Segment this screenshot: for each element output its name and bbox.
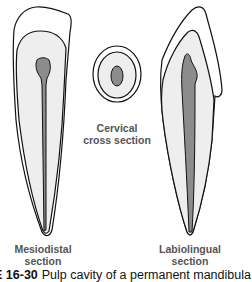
- labiolingual-label-line2: section: [150, 255, 230, 267]
- labiolingual-section-drawing: [161, 7, 222, 235]
- labiolingual-label-line1: Labiolingual: [150, 243, 230, 255]
- mesiodistal-label: Mesiodistal section: [5, 243, 81, 267]
- cervical-pulp: [111, 66, 123, 86]
- cervical-cross-section-drawing: [93, 46, 141, 102]
- figure-number: E 16-30: [0, 268, 38, 282]
- cervical-label-line1: Cervical: [82, 122, 152, 134]
- cervical-label: Cervical cross section: [82, 122, 152, 146]
- mesiodistal-section-drawing: [13, 7, 71, 236]
- mesiodistal-label-line2: section: [5, 255, 81, 267]
- mesiodistal-label-line1: Mesiodistal: [5, 243, 81, 255]
- figure-caption-text: Pulp cavity of a permanent mandibula: [42, 268, 251, 282]
- cervical-label-line2: cross section: [82, 134, 152, 146]
- figure-caption: E 16-30Pulp cavity of a permanent mandib…: [0, 268, 251, 282]
- labiolingual-label: Labiolingual section: [150, 243, 230, 267]
